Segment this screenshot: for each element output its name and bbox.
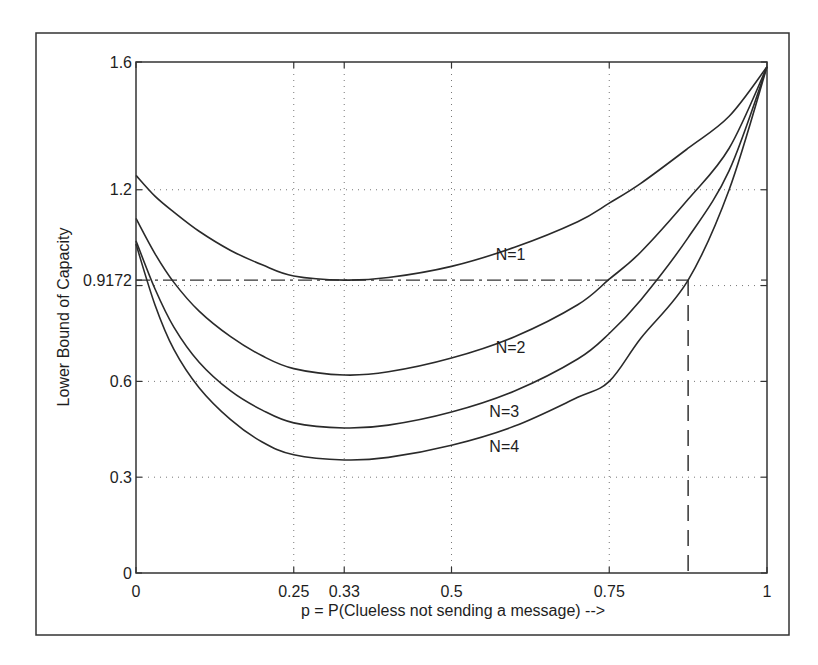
axis-ticks: 00.250.330.50.75100.30.60.91721.21.6 <box>83 54 771 601</box>
x-tick-label: 0.25 <box>278 583 309 600</box>
x-tick-label: 0 <box>132 583 141 600</box>
x-tick-label: 0.33 <box>329 583 360 600</box>
y-tick-label: 0.3 <box>110 469 132 486</box>
annotation-lines <box>136 280 688 573</box>
y-axis-label: Lower Bound of Capacity <box>55 228 72 407</box>
series-line-n4 <box>136 67 767 460</box>
capacity-chart: 00.250.330.50.75100.30.60.91721.21.6 N=1… <box>0 0 818 665</box>
x-axis-label: p = P(Clueless not sending a message) --… <box>301 602 605 619</box>
y-tick-label: 0 <box>123 565 132 582</box>
grid-lines <box>136 62 767 573</box>
y-tick-label: 1.6 <box>110 54 132 71</box>
series-label-n3: N=3 <box>489 403 519 420</box>
series-label-n1: N=1 <box>496 246 526 263</box>
series-label-n2: N=2 <box>496 339 526 356</box>
series-label-n4: N=4 <box>489 438 519 455</box>
x-tick-label: 0.5 <box>440 583 462 600</box>
x-tick-label: 0.75 <box>594 583 625 600</box>
x-tick-label: 1 <box>763 583 772 600</box>
data-series <box>136 67 767 460</box>
y-tick-label: 0.9172 <box>83 272 132 289</box>
y-tick-label: 0.6 <box>110 373 132 390</box>
outer-frame <box>36 33 789 635</box>
series-line-n2 <box>136 67 767 375</box>
y-tick-label: 1.2 <box>110 181 132 198</box>
plot-area-border <box>136 62 767 573</box>
series-line-n3 <box>136 67 767 428</box>
